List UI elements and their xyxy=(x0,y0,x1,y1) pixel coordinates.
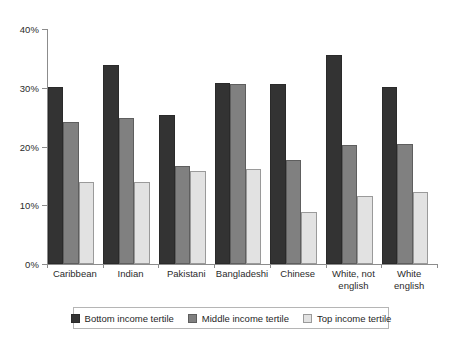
bar xyxy=(357,196,373,264)
x-axis-category-label: Pakistani xyxy=(158,268,214,280)
x-axis-category-label: Chinese xyxy=(270,268,326,280)
chart-legend: Bottom income tertileMiddle income terti… xyxy=(73,307,389,329)
bar-group xyxy=(270,29,326,264)
bar xyxy=(382,87,398,264)
bar xyxy=(413,192,429,264)
bar xyxy=(301,212,317,264)
bar xyxy=(342,145,358,264)
y-axis-label: 0% xyxy=(25,259,39,270)
bar xyxy=(190,171,206,264)
bar-group xyxy=(381,29,437,264)
bar xyxy=(326,55,342,264)
x-axis-category-label: Caribbean xyxy=(47,268,103,280)
x-axis-tick xyxy=(381,264,382,268)
y-axis-label: 20% xyxy=(20,141,39,152)
bar xyxy=(246,169,262,264)
y-axis-label: 40% xyxy=(20,24,39,35)
x-axis-tick xyxy=(326,264,327,268)
legend-label: Top income tertile xyxy=(317,313,391,324)
y-axis-label: 30% xyxy=(20,82,39,93)
legend-label: Bottom income tertile xyxy=(85,313,174,324)
legend-item[interactable]: Bottom income tertile xyxy=(71,313,174,324)
bar xyxy=(134,182,150,264)
x-axis-tick xyxy=(158,264,159,268)
plot-area: 0%10%20%30%40% xyxy=(47,29,437,264)
bar xyxy=(397,144,413,264)
legend-item[interactable]: Middle income tertile xyxy=(188,313,289,324)
x-axis-category-label: Indian xyxy=(103,268,159,280)
bar xyxy=(63,122,79,264)
bar xyxy=(79,182,95,264)
legend-item[interactable]: Top income tertile xyxy=(303,313,391,324)
x-axis-tick xyxy=(270,264,271,268)
dark-swatch xyxy=(71,314,80,323)
x-axis-line xyxy=(47,264,437,265)
bar xyxy=(159,115,175,264)
x-axis-tick xyxy=(214,264,215,268)
bar xyxy=(270,84,286,264)
bar xyxy=(48,87,64,264)
bar-group xyxy=(214,29,270,264)
bar-group xyxy=(47,29,103,264)
bar xyxy=(103,65,119,264)
bar xyxy=(286,160,302,264)
x-axis-tick xyxy=(47,264,48,268)
bar xyxy=(230,84,246,264)
medium-swatch xyxy=(188,314,197,323)
bar xyxy=(175,166,191,264)
light-swatch xyxy=(303,314,312,323)
x-axis-tick xyxy=(103,264,104,268)
x-axis-tick xyxy=(437,264,438,268)
bar-chart: 0%10%20%30%40% CaribbeanIndianPakistaniB… xyxy=(0,0,461,346)
x-axis-category-label: Bangladeshi xyxy=(214,268,270,280)
bar-group xyxy=(326,29,382,264)
bar xyxy=(119,118,135,264)
x-axis-category-label: White english xyxy=(381,268,437,291)
legend-label: Middle income tertile xyxy=(202,313,289,324)
x-axis-category-label: White, not english xyxy=(326,268,382,291)
bar-group xyxy=(103,29,159,264)
bar xyxy=(215,83,231,264)
bar-group xyxy=(158,29,214,264)
y-axis-label: 10% xyxy=(20,200,39,211)
